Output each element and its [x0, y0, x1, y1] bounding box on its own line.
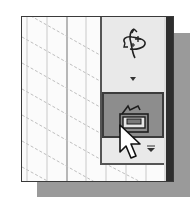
- window-right-border: [164, 17, 173, 181]
- cad-window: [21, 16, 174, 182]
- flyout-arrow-icon[interactable]: [146, 145, 156, 153]
- chevron-down-icon[interactable]: [130, 77, 136, 81]
- graphics-canvas-lower: [100, 165, 166, 182]
- mouse-pointer-icon: [118, 124, 144, 162]
- graphics-canvas[interactable]: [22, 17, 100, 181]
- grid-lines: [22, 17, 100, 181]
- screenshot-stage: [0, 0, 192, 210]
- rotate-view-button[interactable]: [116, 25, 152, 61]
- rotate-3d-icon: [116, 25, 152, 61]
